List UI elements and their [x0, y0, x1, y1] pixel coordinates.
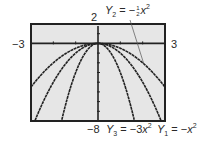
x-max-label: 3	[171, 39, 177, 50]
y2-equation-label: Y2 = −12x2	[105, 5, 150, 17]
y3-equation-label: Y3 = −3x2	[106, 124, 152, 135]
y1-equation-label: Y1 = −x2	[157, 124, 197, 135]
y-max-label: 2	[91, 12, 97, 23]
y-min-label: −8	[87, 124, 100, 135]
x-min-label: −3	[12, 39, 25, 50]
